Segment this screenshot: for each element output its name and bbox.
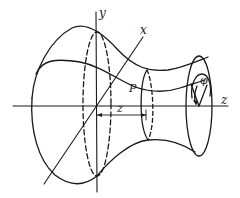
phi-angle-label: φ bbox=[200, 74, 208, 87]
surface-meridian-curve bbox=[36, 60, 205, 91]
cross-section-front-at-P bbox=[141, 70, 148, 140]
x-axis-label: x bbox=[140, 23, 147, 37]
surface-bottom-profile bbox=[97, 140, 195, 177]
z-arrow-left bbox=[97, 113, 102, 117]
cross-section-back-at-P bbox=[147, 70, 153, 140]
radius-line-2 bbox=[199, 85, 207, 106]
y-axis bbox=[96, 12, 97, 192]
z-arrow-right bbox=[141, 113, 146, 117]
surface-left-edge bbox=[32, 98, 97, 184]
surface-of-revolution-diagram: y x z P z φ bbox=[0, 0, 240, 198]
point-P-label: P bbox=[128, 82, 137, 95]
y-axis-label: y bbox=[98, 6, 106, 20]
z-axis-label: z bbox=[220, 93, 228, 107]
z-distance-label: z bbox=[116, 102, 123, 115]
